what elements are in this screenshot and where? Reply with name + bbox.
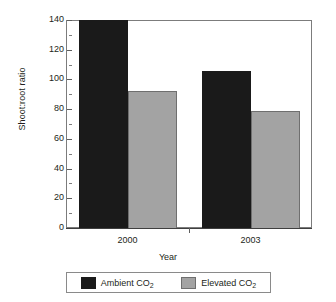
y-tick-label: 0 xyxy=(59,222,64,232)
legend-swatch-ambient-icon xyxy=(81,277,96,289)
y-tick-label: 40 xyxy=(54,163,64,173)
bar-2000-ambient xyxy=(79,20,128,228)
y-tick-label: 120 xyxy=(49,44,64,54)
bar-2000-elevated xyxy=(128,91,177,228)
y-tick-label: 80 xyxy=(54,103,64,113)
y-tick-label: 100 xyxy=(49,73,64,83)
chart-legend: Ambient CO2 Elevated CO2 xyxy=(66,272,271,293)
bar-2003-elevated xyxy=(251,111,300,228)
x-axis-title: Year xyxy=(0,252,336,262)
y-tick-label: 20 xyxy=(54,192,64,202)
y-tick-label: 60 xyxy=(54,133,64,143)
x-tick-mark xyxy=(189,228,190,233)
legend-label-ambient: Ambient CO2 xyxy=(101,278,154,288)
legend-item-ambient: Ambient CO2 xyxy=(81,277,154,289)
bars-layer xyxy=(66,20,312,228)
legend-item-elevated: Elevated CO2 xyxy=(181,277,256,289)
y-axis-title: Shoot:root ratio xyxy=(17,29,27,169)
bar-chart-figure: Shoot:root ratio 020406080100120140 2000… xyxy=(0,0,336,302)
bar-2003-ambient xyxy=(202,71,251,228)
legend-label-elevated: Elevated CO2 xyxy=(201,278,256,288)
legend-swatch-elevated-icon xyxy=(181,277,196,289)
x-tick-label-2000: 2000 xyxy=(98,235,158,245)
x-tick-label-2003: 2003 xyxy=(221,235,281,245)
y-tick-label: 140 xyxy=(49,14,64,24)
